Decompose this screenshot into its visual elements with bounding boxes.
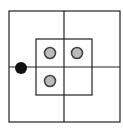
gray-dot [45,48,56,59]
gray-dot [72,48,83,59]
gray-dot [45,76,56,87]
quadrant-diagram [0,0,123,131]
black-dot [15,62,27,74]
